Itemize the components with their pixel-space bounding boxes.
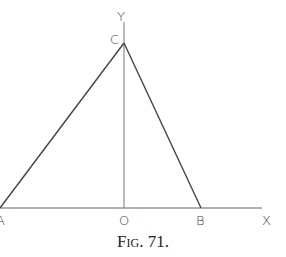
segment-cb [124,43,201,208]
caption-prefix: Fig. [117,232,143,251]
point-o-label: O [119,214,129,227]
x-axis-label: X [262,214,271,227]
point-c-label: C [110,33,119,46]
point-b-label: B [196,214,205,227]
figure-caption: Fig. 71. [0,232,286,252]
point-a-label: A [0,214,5,227]
triangle-diagram [0,0,286,257]
y-axis-label: Y [117,10,125,23]
figure-71: Y C A O B X Fig. 71. [0,0,286,257]
caption-number: 71. [148,232,169,251]
segment-ac [0,43,124,208]
